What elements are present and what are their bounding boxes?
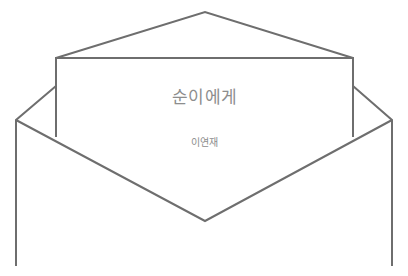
envelope-left-wall-icon [16,86,56,266]
artwork-canvas: 순이에게 이연재 [0,0,408,276]
letter-card-icon [56,58,353,137]
envelope-illustration [0,0,408,276]
triangle-flap-icon [56,12,353,58]
envelope-right-wall-icon [353,86,392,266]
